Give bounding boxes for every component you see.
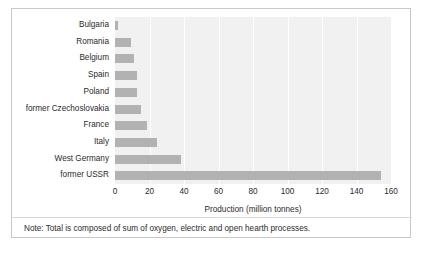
bar-row: former Czechoslovakia <box>115 101 391 118</box>
x-tick-label: 120 <box>315 187 329 196</box>
category-label: Belgium <box>79 52 109 64</box>
bar <box>115 121 147 130</box>
x-axis-title: Production (million tonnes) <box>115 205 391 214</box>
bar-row: Bulgaria <box>115 17 391 34</box>
bar-row: West Germany <box>115 151 391 168</box>
bar-row: Poland <box>115 84 391 101</box>
bar <box>115 38 131 47</box>
category-label: former Czechoslovakia <box>26 103 109 115</box>
x-tick-label: 80 <box>248 187 257 196</box>
category-label: former USSR <box>60 169 109 181</box>
category-label: West Germany <box>55 153 109 165</box>
bar <box>115 21 118 30</box>
category-label: Poland <box>84 86 110 98</box>
bar <box>115 88 137 97</box>
bar-row: Belgium <box>115 50 391 67</box>
category-label: Romania <box>76 36 109 48</box>
x-tick-label: 20 <box>145 187 154 196</box>
category-label: France <box>84 119 109 131</box>
bar-row: former USSR <box>115 167 391 184</box>
category-label: Italy <box>94 136 109 148</box>
category-label: Bulgaria <box>79 19 109 31</box>
chart-note: Note: Total is composed of sum of oxygen… <box>24 224 310 233</box>
category-label: Spain <box>88 69 109 81</box>
bar-row: Italy <box>115 134 391 151</box>
x-tick-label: 40 <box>179 187 188 196</box>
x-tick-label: 100 <box>281 187 295 196</box>
x-tick-label: 60 <box>214 187 223 196</box>
bar <box>115 54 134 63</box>
x-tick-label: 140 <box>350 187 364 196</box>
gridline <box>391 17 392 184</box>
figure-panel: BulgariaRomaniaBelgiumSpainPolandformer … <box>11 8 411 238</box>
bar-row: Romania <box>115 34 391 51</box>
bar <box>115 71 137 80</box>
x-tick-label: 160 <box>384 187 398 196</box>
bar-row: Spain <box>115 67 391 84</box>
bar-row: France <box>115 117 391 134</box>
note-divider <box>12 217 412 218</box>
bar <box>115 138 157 147</box>
bar <box>115 155 181 164</box>
bar-chart: BulgariaRomaniaBelgiumSpainPolandformer … <box>12 9 412 239</box>
bar <box>115 105 141 114</box>
bar <box>115 171 381 180</box>
x-tick-label: 0 <box>113 187 118 196</box>
